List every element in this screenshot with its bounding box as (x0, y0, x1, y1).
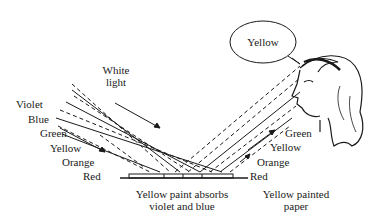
reflected-label-red: Red (250, 170, 268, 182)
paper-caption-line2: paper (255, 200, 337, 212)
surface-caption-line2: violet and blue (112, 200, 252, 212)
incoming-label-orange: Orange (62, 156, 94, 168)
painted-paper-surface (120, 174, 248, 178)
white-light-line2: light (96, 76, 136, 88)
incoming-label-red: Red (83, 170, 101, 182)
incoming-label-blue: Blue (28, 113, 49, 125)
surface-caption: Yellow paint absorbs violet and blue (112, 188, 252, 212)
paper-caption-line1: Yellow painted (255, 188, 337, 200)
white-light-line1: White (96, 64, 136, 76)
incoming-label-yellow: Yellow (50, 142, 81, 154)
incoming-label-green: Green (40, 127, 67, 139)
incoming-label-violet: Violet (16, 98, 43, 110)
diagram: Yellow White light Violet Blue Green Yel… (0, 0, 375, 224)
surface-caption-line1: Yellow paint absorbs (112, 188, 252, 200)
reflected-label-orange: Orange (257, 156, 289, 168)
reflected-label-yellow: Yellow (270, 141, 301, 153)
speech-bubble-text: Yellow (240, 36, 286, 48)
white-light-label: White light (96, 64, 136, 88)
reflected-label-green: Green (285, 127, 312, 139)
paper-caption: Yellow painted paper (255, 188, 337, 212)
